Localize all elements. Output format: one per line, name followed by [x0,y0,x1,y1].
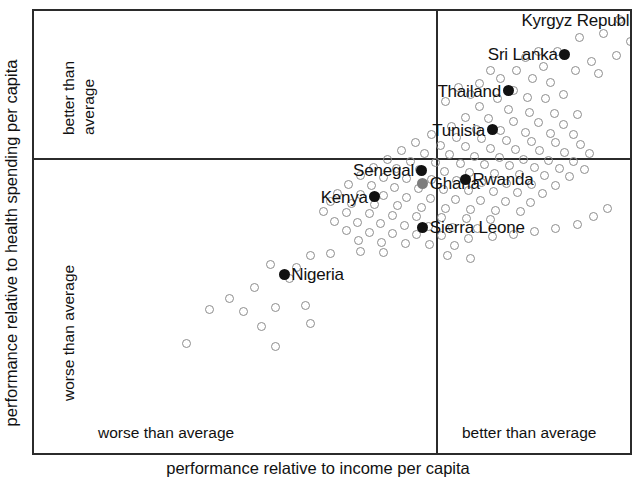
data-point-open [475,102,484,111]
data-point-open [306,251,315,260]
plot-area: better than average worse than average w… [34,11,630,453]
data-point-open [342,208,351,217]
data-point-open [491,206,500,215]
data-point-senegal [416,165,427,176]
data-point-open [250,283,259,292]
data-point-open [420,149,429,158]
data-point-open [486,66,495,75]
data-point-open [239,307,248,316]
x-right-quadrant-label: better than average [462,424,596,441]
point-label-kenya: Kenya [321,188,368,205]
data-point-open [466,254,475,263]
data-point-open [555,164,564,173]
data-point-open [540,171,549,180]
data-point-open [535,146,544,155]
y-top-quadrant-label-line2: average [80,79,97,135]
data-point-open [550,109,559,118]
data-point-open [425,240,434,249]
data-point-open [525,108,534,117]
data-point-open [541,94,550,103]
data-point-open [511,145,520,154]
data-point-open [573,110,582,119]
data-point-open [546,129,555,138]
data-point-open [326,249,335,258]
data-point-open [402,193,411,202]
data-point-open [480,160,489,169]
data-point-open [319,207,328,216]
data-point-open [397,146,406,155]
data-point-open [342,226,351,235]
data-point-open [527,137,536,146]
data-point-open [271,342,280,351]
y-bottom-quadrant-label: worse than average [60,265,77,401]
data-point-open [470,152,479,161]
y-top-quadrant-label-line1: better than [60,61,77,135]
data-point-open [388,229,397,238]
data-point-open [560,148,569,157]
data-point-open [450,241,459,250]
data-point-open [502,136,511,145]
data-point-open [509,117,518,126]
data-point-open [417,203,426,212]
point-label-sri-lanka: Sri Lanka [488,46,558,63]
data-point-open [379,191,388,200]
data-point-open [330,217,339,226]
data-point-tunisia [487,124,498,135]
data-point-open [461,142,470,151]
data-point-open [182,339,191,348]
data-point-open [571,66,580,75]
data-point-open [356,247,365,256]
data-point-open [569,157,578,166]
data-point-open [365,228,374,237]
data-point-open [575,33,584,42]
data-point-open [365,209,374,218]
point-label-nigeria: Nigeria [291,266,343,283]
point-label-tunisia: Tunisia [432,121,485,138]
plot-frame: better than average worse than average w… [32,9,632,455]
data-point-open [559,120,568,129]
data-point-open [301,301,310,310]
horizontal-axis-divider [34,158,630,160]
data-point-open [501,197,510,206]
scatter-plot-figure: performance relative to health spending … [0,0,636,486]
data-point-open [376,219,385,228]
data-point-open [393,201,402,210]
data-point-open [576,140,585,149]
data-point-open [466,205,475,214]
data-point-open [388,211,397,220]
data-point-open [521,128,530,137]
data-point-open [544,156,553,165]
data-point-open [456,159,465,168]
data-point-sierra-leone [417,222,428,233]
data-point-open [441,204,450,213]
data-point-open [551,224,560,233]
data-point-open [401,239,410,248]
data-point-open [528,74,537,83]
data-point-open [411,138,420,147]
data-point-open [431,158,440,167]
data-point-open [551,138,560,147]
y-axis-title: performance relative to health spending … [0,0,22,486]
data-point-open [390,183,399,192]
data-point-open [580,165,589,174]
data-point-open [565,172,574,181]
data-point-open [400,221,409,230]
data-point-open [225,294,234,303]
data-point-open [426,194,435,203]
data-point-open [569,130,578,139]
data-point-open [496,126,505,135]
data-point-open [589,212,598,221]
point-label-rwanda: Rwanda [472,171,533,188]
data-point-open [519,155,528,164]
point-label-kyrgyz-republic: Kyrgyz Republic [521,11,630,28]
data-point-open [526,198,535,207]
data-point-open [516,207,525,216]
data-point-open [257,322,266,331]
data-point-open [546,78,555,87]
data-point-sri-lanka [559,49,570,60]
data-point-open [626,37,630,46]
point-label-thailand: Thailand [437,82,501,99]
data-point-open [377,238,386,247]
data-point-open [585,149,594,158]
data-point-open [513,188,522,197]
